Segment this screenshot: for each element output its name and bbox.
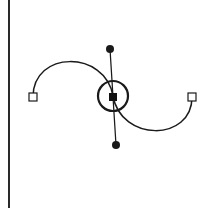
left-anchor-point-icon[interactable] xyxy=(29,93,37,101)
right-anchor-point-icon[interactable] xyxy=(188,93,196,101)
top-control-handle-icon[interactable] xyxy=(106,45,114,53)
selected-anchor-point-icon[interactable] xyxy=(109,93,117,101)
diagram-canvas: Bezier curve smooth anchor point with co… xyxy=(0,0,212,208)
bottom-control-handle-icon[interactable] xyxy=(112,141,120,149)
